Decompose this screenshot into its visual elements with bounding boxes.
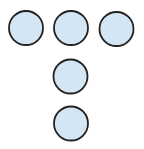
circle-bottom: [54, 107, 88, 141]
circle-top-left: [9, 11, 43, 45]
circle-diagram: [0, 0, 144, 149]
circle-top-middle: [54, 11, 88, 45]
circle-top-right: [100, 12, 134, 46]
circle-middle: [54, 60, 88, 94]
